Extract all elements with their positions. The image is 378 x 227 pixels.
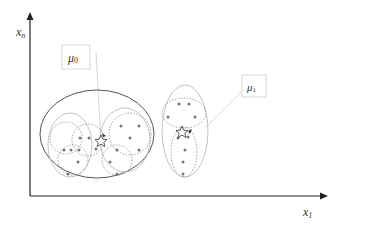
clustering-diagram: xn x1 μ0 μ1 <box>0 0 378 227</box>
axes <box>27 12 329 200</box>
dashed-circle <box>50 122 82 154</box>
mu1-label-box: μ1 <box>242 75 266 97</box>
dashed-ellipse <box>162 98 206 128</box>
y-axis-label: xn <box>15 25 25 40</box>
mu1-leader-line <box>205 88 245 128</box>
dashed-circle <box>109 113 151 155</box>
y-axis-arrow-icon <box>27 12 34 20</box>
mu0-centroid-star-icon <box>95 133 107 147</box>
x-axis-label: x1 <box>302 205 312 220</box>
cluster-0 <box>40 90 154 178</box>
x-axis-arrow-icon <box>320 193 328 200</box>
mu0-label-box: μ0 <box>62 45 90 69</box>
outer-ellipse <box>40 90 154 178</box>
cluster-1-points <box>167 103 197 176</box>
mu1-centroid-star-icon <box>176 126 192 138</box>
